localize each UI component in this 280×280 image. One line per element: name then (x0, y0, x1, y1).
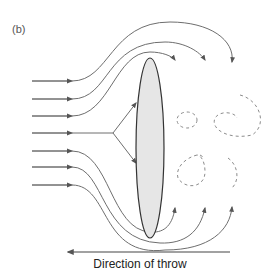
stagnation-up (113, 103, 136, 133)
eddy-2 (214, 95, 260, 136)
streamlines (32, 22, 232, 251)
eddy-1 (177, 112, 197, 128)
projectile-body (136, 58, 164, 238)
airflow-diagram (0, 0, 280, 280)
eddies (177, 95, 261, 188)
streamline-1 (32, 22, 232, 81)
streamline-6 (32, 167, 205, 243)
eddy-3 (177, 155, 205, 186)
throw-direction-caption: Direction of throw (0, 257, 280, 271)
streamline-2 (32, 42, 205, 99)
eddy-4 (228, 158, 237, 188)
stagnation-down (113, 133, 136, 163)
